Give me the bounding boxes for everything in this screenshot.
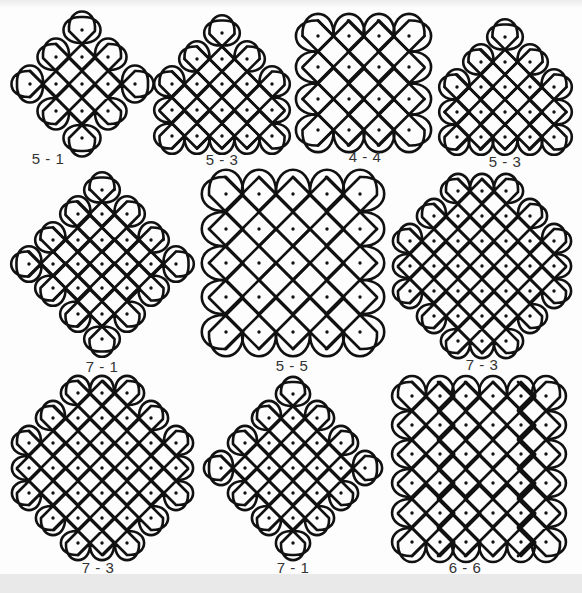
kolam-dot bbox=[438, 423, 441, 426]
kolam-dot bbox=[519, 452, 522, 455]
kolam-dot bbox=[438, 394, 441, 397]
kolam-dot bbox=[464, 423, 467, 426]
kolam-dot bbox=[491, 540, 494, 543]
kolam-dot bbox=[464, 540, 467, 543]
kolam-dot bbox=[544, 452, 547, 455]
kolam-dot bbox=[464, 394, 467, 397]
kolam-dot bbox=[491, 423, 494, 426]
kolam-dot bbox=[519, 423, 522, 426]
kolam-dot bbox=[519, 481, 522, 484]
kolam-dot bbox=[464, 511, 467, 514]
kolam-drawing bbox=[0, 0, 582, 593]
kolam-dot bbox=[410, 394, 413, 397]
kolam-dot bbox=[519, 540, 522, 543]
kolam-dot bbox=[410, 423, 413, 426]
kolam-dot bbox=[544, 481, 547, 484]
kolam-dot bbox=[544, 394, 547, 397]
kolam-dot bbox=[410, 481, 413, 484]
kolam-dot bbox=[491, 481, 494, 484]
kolam-dot bbox=[410, 511, 413, 514]
kolam-dot bbox=[410, 540, 413, 543]
kolam-dot bbox=[519, 394, 522, 397]
kolam-dot bbox=[464, 452, 467, 455]
kolam-dot bbox=[491, 511, 494, 514]
kolam-dot bbox=[410, 452, 413, 455]
kolam-dot bbox=[491, 394, 494, 397]
kolam-dot bbox=[544, 540, 547, 543]
kolam-dot bbox=[438, 511, 441, 514]
kolam-dot bbox=[438, 452, 441, 455]
kolam-dot bbox=[544, 423, 547, 426]
kolam-dot bbox=[519, 511, 522, 514]
kolam-dot bbox=[464, 481, 467, 484]
kolam-dot bbox=[438, 540, 441, 543]
kolam-dot bbox=[491, 452, 494, 455]
pattern-label: 6 - 6 bbox=[449, 559, 482, 576]
kolam-dot bbox=[544, 511, 547, 514]
kolam-dot bbox=[438, 481, 441, 484]
